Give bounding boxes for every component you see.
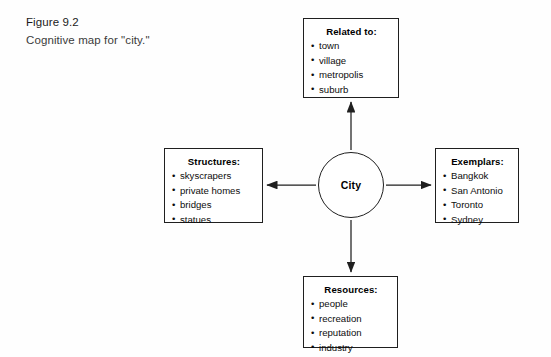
node-list-related: town village metropolis suburb bbox=[311, 39, 392, 97]
figure-caption-text: Cognitive map for "city." bbox=[26, 32, 150, 48]
center-node-city: City bbox=[318, 152, 384, 218]
list-item: metropolis bbox=[311, 68, 392, 83]
node-box-related: Related to: town village metropolis subu… bbox=[303, 18, 399, 98]
list-item: skyscrapers bbox=[172, 169, 256, 184]
list-item: private homes bbox=[172, 184, 256, 199]
node-list-structures: skyscrapers private homes bridges statue… bbox=[172, 169, 256, 227]
figure-number: Figure 9.2 bbox=[26, 14, 150, 30]
list-item: industry bbox=[311, 341, 391, 356]
node-heading-structures: Structures: bbox=[172, 156, 256, 167]
node-box-exemplars: Exemplars: Bangkok San Antonio Toronto S… bbox=[435, 148, 519, 223]
node-heading-exemplars: Exemplars: bbox=[443, 156, 512, 167]
node-heading-related: Related to: bbox=[311, 26, 392, 37]
center-node-label: City bbox=[341, 179, 362, 191]
list-item: recreation bbox=[311, 312, 391, 327]
list-item: people bbox=[311, 297, 391, 312]
figure-caption: Figure 9.2 Cognitive map for "city." bbox=[26, 14, 150, 49]
list-item: bridges bbox=[172, 198, 256, 213]
node-list-resources: people recreation reputation industry bbox=[311, 297, 391, 355]
list-item: Bangkok bbox=[443, 169, 512, 184]
node-list-exemplars: Bangkok San Antonio Toronto Sydney bbox=[443, 169, 512, 227]
list-item: Sydney bbox=[443, 213, 512, 228]
list-item: reputation bbox=[311, 326, 391, 341]
list-item: statues bbox=[172, 213, 256, 228]
list-item: town bbox=[311, 39, 392, 54]
list-item: village bbox=[311, 54, 392, 69]
list-item: Toronto bbox=[443, 198, 512, 213]
list-item: suburb bbox=[311, 83, 392, 98]
list-item: San Antonio bbox=[443, 184, 512, 199]
node-heading-resources: Resources: bbox=[311, 284, 391, 295]
node-box-resources: Resources: people recreation reputation … bbox=[303, 276, 398, 348]
figure-container: Figure 9.2 Cognitive map for "city." Rel… bbox=[0, 0, 551, 357]
node-box-structures: Structures: skyscrapers private homes br… bbox=[164, 148, 263, 223]
